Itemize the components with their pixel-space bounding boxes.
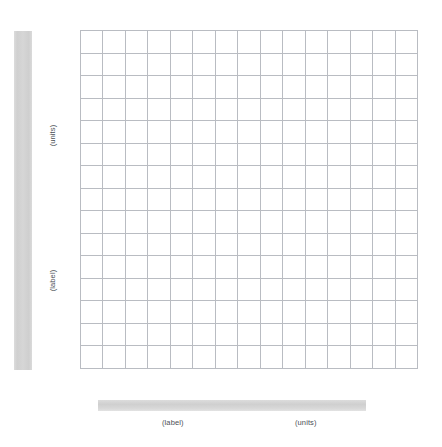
grid-cell: [373, 31, 395, 54]
grid-cell: [396, 99, 418, 122]
grid-cell: [171, 54, 193, 77]
grid-cell: [81, 234, 103, 257]
grid-cell: [171, 76, 193, 99]
grid-cell: [328, 99, 350, 122]
grid-cell: [283, 189, 305, 212]
grid-cell: [373, 256, 395, 279]
grid-cell: [261, 166, 283, 189]
grid-cell: [81, 279, 103, 302]
grid-cell: [171, 31, 193, 54]
x-axis-units-caption: (units): [295, 418, 317, 427]
grid-cell: [81, 144, 103, 167]
grid-cell: [103, 189, 125, 212]
grid-cell: [238, 324, 260, 347]
grid-cell: [261, 301, 283, 324]
grid-cell: [283, 144, 305, 167]
grid-cell: [126, 211, 148, 234]
grid-cell: [193, 76, 215, 99]
grid-cell: [103, 279, 125, 302]
grid-cell: [216, 256, 238, 279]
grid-cell: [351, 211, 373, 234]
grid-cell: [396, 144, 418, 167]
figure-canvas: (units) (label) (label) (units): [0, 0, 442, 447]
grid-cell: [216, 301, 238, 324]
grid-cell: [126, 76, 148, 99]
grid-cell: [306, 189, 328, 212]
grid-cell: [81, 324, 103, 347]
grid-cell: [306, 324, 328, 347]
grid-cell: [283, 99, 305, 122]
grid-cell: [396, 54, 418, 77]
grid-cell: [373, 279, 395, 302]
grid-cell: [351, 31, 373, 54]
grid-cell: [81, 211, 103, 234]
grid-cell: [351, 256, 373, 279]
grid-cell: [328, 76, 350, 99]
grid-cell: [148, 121, 170, 144]
grid-cell: [373, 324, 395, 347]
grid-cell: [396, 76, 418, 99]
grid-cell: [148, 234, 170, 257]
grid-cell: [148, 324, 170, 347]
grid-cell: [193, 346, 215, 369]
grid-cell: [283, 279, 305, 302]
grid-cell: [396, 211, 418, 234]
grid-cell: [216, 31, 238, 54]
grid-cell: [283, 31, 305, 54]
grid-cell: [193, 144, 215, 167]
grid-cell: [103, 324, 125, 347]
grid-cell: [216, 324, 238, 347]
grid-cell: [306, 279, 328, 302]
grid-cell: [283, 324, 305, 347]
grid-cell: [126, 189, 148, 212]
grid-cell: [283, 166, 305, 189]
grid-cell: [126, 99, 148, 122]
grid-cell: [306, 346, 328, 369]
grid-cell: [171, 324, 193, 347]
grid-cell: [193, 121, 215, 144]
grid-cell: [148, 211, 170, 234]
grid-cell: [103, 121, 125, 144]
grid-cell: [261, 324, 283, 347]
grid-cell: [126, 256, 148, 279]
grid-cell: [306, 256, 328, 279]
grid-cell: [148, 54, 170, 77]
grid-cell: [306, 211, 328, 234]
grid-cell: [351, 144, 373, 167]
grid-cell: [126, 346, 148, 369]
grid-cell: [283, 301, 305, 324]
grid-cell: [396, 301, 418, 324]
grid-cell: [351, 234, 373, 257]
x-axis-label-caption: (label): [162, 418, 184, 427]
grid-cell: [193, 54, 215, 77]
grid-cell: [193, 189, 215, 212]
grid-cell: [261, 31, 283, 54]
grid-cell: [261, 144, 283, 167]
grid-cell: [396, 279, 418, 302]
grid-cell: [238, 279, 260, 302]
grid-cell: [171, 189, 193, 212]
grid-cell: [351, 76, 373, 99]
grid-cell: [193, 324, 215, 347]
grid-cell: [328, 166, 350, 189]
grid-cell: [351, 301, 373, 324]
grid-cell: [216, 99, 238, 122]
grid-cell: [373, 166, 395, 189]
grid-cell: [283, 121, 305, 144]
grid-cell: [171, 256, 193, 279]
y-axis-units-caption: (units): [48, 123, 57, 149]
horizontal-axis-label-placeholder-bar: [98, 400, 366, 411]
grid-cell: [193, 279, 215, 302]
grid-cell: [103, 76, 125, 99]
grid-cell: [193, 211, 215, 234]
grid-cell: [171, 301, 193, 324]
grid-cell: [261, 99, 283, 122]
grid-cell: [126, 121, 148, 144]
grid-cell: [193, 31, 215, 54]
grid-cell: [103, 166, 125, 189]
grid-cell: [373, 144, 395, 167]
grid-cell: [373, 99, 395, 122]
grid-cell: [193, 301, 215, 324]
grid-cell: [373, 54, 395, 77]
grid-cell: [238, 76, 260, 99]
